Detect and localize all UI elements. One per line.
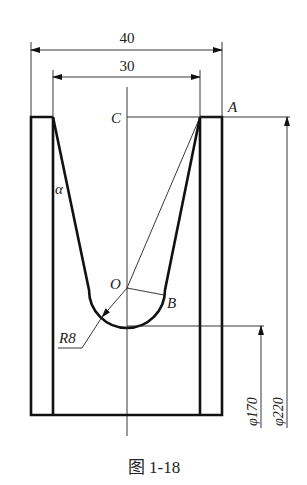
groove-profile [53, 117, 200, 328]
point-O-label: O [110, 276, 121, 292]
phi220-label: φ220 [271, 397, 286, 426]
technical-drawing: 40 30 φ170 φ220 C A O B α R8 图 1-1 [0, 0, 307, 485]
point-C-label: C [111, 110, 122, 126]
radius-R8-label: R8 [58, 330, 76, 346]
figure-caption: 图 1-18 [128, 458, 180, 477]
dimension-phi170: φ170 [245, 326, 261, 428]
line-AO [127, 117, 200, 288]
dimension-30: 30 [53, 58, 200, 117]
phi170-label: φ170 [245, 397, 260, 426]
line-OB [127, 288, 164, 295]
dimension-phi220: φ220 [271, 117, 287, 428]
point-A-label: A [227, 99, 238, 115]
point-B-label: B [167, 295, 176, 311]
dimension-30-label: 30 [120, 58, 135, 74]
vessel-outline [31, 117, 222, 415]
angle-alpha-label: α [55, 181, 64, 197]
dimension-40-label: 40 [120, 30, 135, 46]
r8-leader [102, 288, 127, 317]
